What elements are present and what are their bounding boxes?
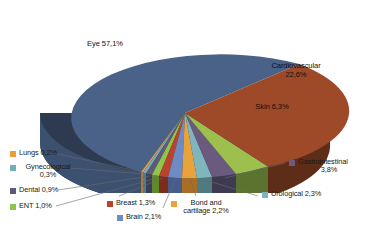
- callout-urological-label: Urological 2,3%: [271, 190, 321, 198]
- callout-bond-line2: cartilage 2,2%: [183, 206, 228, 215]
- callout-gastrointestinal: Gastrointestinal 3,8%: [289, 158, 360, 175]
- callout-gynecological: Gynecological 0,3%: [10, 163, 77, 180]
- slice-label-cardiovascular: Cardiovascular 22,6%: [255, 62, 337, 79]
- callout-brain: Brain 2,1%: [117, 213, 161, 221]
- swatch-ent-icon: [10, 204, 16, 210]
- callout-lungs: Lungs 0,2%: [10, 149, 57, 157]
- callout-urological: Urological 2,3%: [262, 190, 321, 198]
- callout-bond-cartilage: Bond and cartilage 2,2%: [171, 199, 232, 216]
- swatch-lungs-icon: [10, 151, 16, 157]
- callout-lungs-label: Lungs 0,2%: [19, 149, 57, 157]
- callout-breast-label: Breast 1,3%: [116, 199, 155, 207]
- pie-chart: Eye 57,1% Cardiovascular 22,6% Skin 6,3%…: [0, 0, 370, 231]
- swatch-bond-cartilage-icon: [171, 201, 177, 207]
- swatch-gynecological-icon: [10, 165, 16, 171]
- callout-ent: ENT 1,0%: [10, 202, 52, 210]
- swatch-dental-icon: [10, 188, 16, 194]
- swatch-brain-icon: [117, 215, 123, 221]
- callout-bond-cartilage-label: Bond and cartilage 2,2%: [180, 199, 232, 216]
- swatch-urological-icon: [262, 192, 268, 198]
- slice-label-eye: Eye 57,1%: [70, 40, 140, 49]
- slice-label-cardiovascular-name: Cardiovascular: [271, 61, 320, 70]
- callout-dental: Dental 0,9%: [10, 186, 58, 194]
- callout-ent-label: ENT 1,0%: [19, 202, 52, 210]
- callout-gastrointestinal-value: 3,8%: [298, 166, 360, 174]
- callout-breast: Breast 1,3%: [107, 199, 155, 207]
- swatch-gastrointestinal-icon: [289, 160, 295, 166]
- slice-label-cardiovascular-value: 22,6%: [285, 70, 306, 79]
- callout-dental-label: Dental 0,9%: [19, 186, 58, 194]
- callout-brain-label: Brain 2,1%: [126, 213, 161, 221]
- callout-gastrointestinal-label: Gastrointestinal 3,8%: [298, 158, 360, 175]
- callout-gynecological-label: Gynecological 0,3%: [19, 163, 77, 180]
- callout-gynecological-value: 0,3%: [40, 170, 56, 179]
- slice-label-skin: Skin 6,3%: [242, 103, 302, 112]
- swatch-breast-icon: [107, 201, 113, 207]
